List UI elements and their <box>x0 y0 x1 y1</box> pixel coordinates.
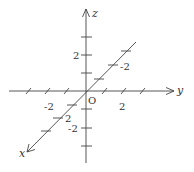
z-axis-label: z <box>91 7 98 20</box>
y-axis-label: y <box>176 84 184 97</box>
y-tick-label-positive: 2 <box>119 101 125 112</box>
3d-axes-diagram: z 2 -2 y -2 2 x 2 -2 O <box>0 0 194 172</box>
y-tick-label-negative: -2 <box>44 101 54 112</box>
z-tick-label-positive: 2 <box>73 50 79 61</box>
x-tick-label-positive: 2 <box>65 113 71 124</box>
origin-label: O <box>88 95 96 106</box>
z-tick-label-negative: -2 <box>68 123 78 134</box>
y-axis <box>9 88 174 95</box>
z-axis <box>81 9 92 163</box>
x-tick-label-negative: -2 <box>120 61 130 72</box>
x-axis-label: x <box>19 147 26 160</box>
x-axis <box>27 42 136 152</box>
